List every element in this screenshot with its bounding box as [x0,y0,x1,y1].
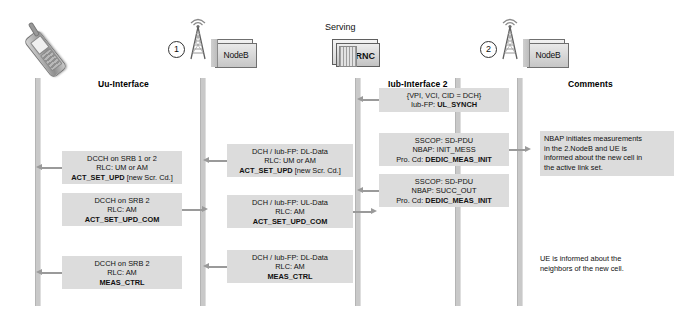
msg-line-2: RLC: AM [64,268,180,277]
msg-primitive: DEDIC_MEAS_INIT [425,196,492,205]
mobile-phone-icon [23,29,68,79]
arrow-shaft [41,272,62,274]
message-iub2-ul-synch: {VPI, VCI, CID = DCH} Iub-FP: UL_SYNCH [379,88,509,112]
actor-ue [22,22,82,78]
msg-line-2: RLC: AM [229,262,351,271]
comment-nbap: NBAP initiates measurements in the 2.Nod… [540,131,674,176]
comment-line-1: UE is informed about the [540,254,666,264]
message-iub1-act-set-upd: DCH / Iub-FP: DL-Data RLC: UM or AM ACT_… [227,144,353,177]
arrow-shaft [208,160,227,162]
msg-line-1: DCCH on SRB 2 [64,259,180,268]
msg-line-1: DCCH on SRB 1 or 2 [64,154,180,163]
message-uu-meas-ctrl: DCCH on SRB 2 RLC: AM MEAS_CTRL [62,256,182,289]
arrow-iub1-act-set-upd-com [353,208,377,215]
arrow-iub1-act-set-upd [203,157,227,164]
arrow-shaft [208,266,227,268]
comment-line-4: the active link set. [544,163,670,173]
msg-line-1: DCH / Iub-FP: DL-Data [229,147,351,156]
msg-line-3: Pro. Cd: DEDIC_MEAS_INIT [381,196,507,205]
comment-line-2: neighbors of the new cell. [540,264,666,274]
msg-procedure-prefix: Pro. Cd: [396,155,425,164]
message-iub1-act-set-upd-com: DCH / Iub-FP: UL-Data RLC: AM ACT_SET_UP… [227,195,353,228]
message-iub1-meas-ctrl: DCH / Iub-FP: DL-Data RLC: AM MEAS_CTRL [227,250,353,283]
msg-line-3: Pro. Cd: DEDIC_MEAS_INIT [381,155,507,164]
msg-line-2: NBAP: INIT_MESS [381,145,507,154]
lifeline-comments [517,78,523,306]
msg-line-1: DCH / Iub-FP: UL-Data [229,198,351,207]
rnc-label: RNC [356,51,376,61]
column-header-uu: Uu-Interface [98,79,149,89]
rnc-slots-icon [339,46,357,67]
arrow-iub2-init-mess [509,146,531,153]
msg-line-3: ACT_SET_UPD [new Scr. Cd.] [64,173,180,182]
msg-primitive: ACT_SET_UPD [239,166,292,175]
comment-line-1: NBAP initiates measurements [544,134,670,144]
msg-protocol: Iub-FP: [411,100,437,109]
msg-primitive: ACT_SET_UPD [71,173,124,182]
msg-param: [new Scr. Cd.] [293,166,341,175]
arrow-uu-meas-ctrl [36,269,62,276]
arrow-head-right-icon [371,208,377,214]
msg-line-2: RLC: AM [229,207,351,216]
msg-line-2: RLC: UM or AM [64,163,180,172]
arrow-shaft [362,99,379,101]
arrow-uu-act-set-upd [36,164,62,171]
arrow-shaft [41,167,62,169]
arrow-shaft [353,211,372,213]
rnc-caption: Serving [325,22,356,32]
arrow-shaft [182,209,203,211]
msg-line-2: Iub-FP: UL_SYNCH [381,100,507,109]
msg-line-1: SSCOP: SD-PDU [381,177,507,186]
msg-line-2: NBAP: SUCC_OUT [381,186,507,195]
rnc-server-icon: RNC [336,43,380,67]
message-iub2-succ-out: SSCOP: SD-PDU NBAP: SUCC_OUT Pro. Cd: DE… [379,174,509,207]
arrow-shaft [362,190,379,192]
arrow-iub2-ul-synch [357,96,379,103]
msg-primitive: MEAS_CTRL [229,272,351,281]
msg-line-2: RLC: UM or AM [229,156,351,165]
msg-primitive: MEAS_CTRL [64,278,180,287]
arrow-iub2-succ-out [357,187,379,194]
msg-primitive: ACT_SET_UPD_COM [229,217,351,226]
nodeb2-box: NodeB [527,43,569,68]
msg-primitive: DEDIC_MEAS_INIT [425,155,492,164]
comment-neighbors: UE is informed about the neighbors of th… [536,251,670,277]
msg-param: [new Scr. Cd.] [125,173,173,182]
arrow-iub1-meas-ctrl [203,263,227,270]
phone-antenna-icon [28,22,40,37]
msg-line-1: SSCOP: SD-PDU [381,136,507,145]
column-header-comments: Comments [568,79,613,89]
arrow-uu-act-set-upd-com [182,206,208,213]
nodeb1-box: NodeB [215,43,257,68]
msg-primitive: UL_SYNCH [437,100,477,109]
arrow-shaft [509,149,526,151]
message-uu-act-set-upd-com: DCCH on SRB 2 RLC: AM ACT_SET_UPD_COM [62,193,182,226]
msg-line-1: DCCH on SRB 2 [64,196,180,205]
sequence-diagram-canvas: 1 NodeB Serving RNC 2 NodeB Uu-Interface… [0,0,686,324]
msg-primitive: ACT_SET_UPD_COM [64,215,180,224]
arrow-head-right-icon [202,206,208,212]
msg-line-3: ACT_SET_UPD [new Scr. Cd.] [229,166,351,175]
msg-line-2: RLC: AM [64,205,180,214]
lifeline-nodeb1 [200,78,206,306]
message-iub2-init-mess: SSCOP: SD-PDU NBAP: INIT_MESS Pro. Cd: D… [379,133,509,166]
arrow-head-right-icon [525,146,531,152]
message-uu-act-set-upd: DCCH on SRB 1 or 2 RLC: UM or AM ACT_SET… [62,151,182,184]
comment-line-2: in the 2.NodeB and UE is [544,144,670,154]
msg-procedure-prefix: Pro. Cd: [396,196,425,205]
comment-line-3: informed about the new cell in [544,153,670,163]
msg-line-1: {VPI, VCI, CID = DCH} [381,91,507,100]
msg-line-1: DCH / Iub-FP: DL-Data [229,253,351,262]
